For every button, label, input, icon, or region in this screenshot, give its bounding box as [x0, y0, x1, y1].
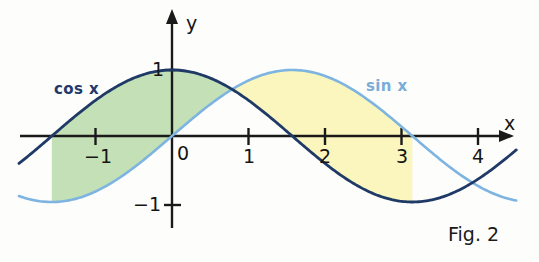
x-tick-label-4: 4: [472, 147, 484, 166]
figure-panel: y x −1 0 1 2 3 4 1 −1 cos x sin x Fig. 2: [0, 0, 539, 262]
x-tick-label-1: 1: [243, 147, 255, 166]
x-axis-label: x: [504, 114, 515, 133]
x-tick-label-2: 2: [319, 147, 331, 166]
x-tick-label-3: 3: [396, 147, 408, 166]
sin-curve-label: sin x: [366, 79, 408, 94]
x-tick-label--1: −1: [84, 147, 112, 166]
y-tick-label--1: −1: [133, 195, 161, 214]
y-tick-label-1: 1: [152, 60, 164, 79]
figure-caption: Fig. 2: [448, 225, 499, 244]
y-axis-label: y: [186, 14, 197, 33]
x-tick-label-0: 0: [177, 144, 189, 163]
y-axis-arrow: [166, 9, 178, 24]
cos-curve-label: cos x: [54, 82, 99, 97]
